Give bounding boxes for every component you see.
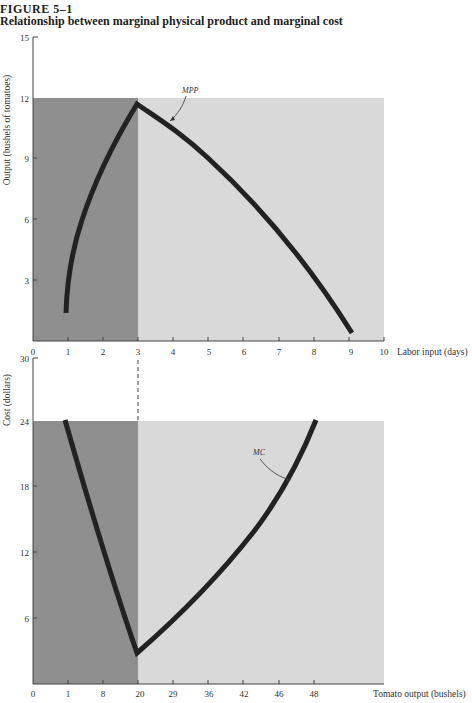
y-axis-label: Cost (dollars): [2, 374, 13, 426]
y-tick-label: 24: [20, 417, 30, 427]
x-axis-label: Labor input (days): [397, 347, 468, 358]
x-tick-label: 48: [310, 689, 320, 699]
x-tick-label: 20: [136, 689, 146, 699]
mpp-label: MPP: [181, 86, 199, 95]
x-tick-label: 7: [277, 347, 282, 357]
y-tick-label: 6: [25, 215, 30, 225]
y-tick-label: 3: [25, 276, 30, 286]
x-tick-label: 4: [171, 347, 176, 357]
mpp-chart: 3 6 9 12 15 0 1 2 3 4 5 6 7 8 9 10 Labor…: [2, 33, 468, 358]
x-tick-label: 0: [31, 347, 36, 357]
x-tick-label: 8: [312, 347, 317, 357]
x-tick-label: 46: [275, 689, 285, 699]
x-tick-label: 29: [169, 689, 179, 699]
x-tick-label: 2: [101, 347, 106, 357]
y-tick-label: 9: [25, 154, 30, 164]
y-tick-label: 15: [20, 33, 30, 43]
x-tick-label: 6: [242, 347, 247, 357]
x-tick-label: 9: [349, 347, 354, 357]
x-tick-label: 1: [66, 689, 71, 699]
mc-label: MC: [252, 448, 266, 457]
y-tick-label: 12: [20, 548, 29, 558]
chart-canvas: 3 6 9 12 15 0 1 2 3 4 5 6 7 8 9 10 Labor…: [0, 0, 472, 703]
x-tick-label: 42: [240, 689, 249, 699]
y-tick-label: 30: [20, 354, 30, 364]
x-tick-label: 36: [205, 689, 215, 699]
x-axis-label: Tomato output (bushels): [373, 689, 466, 700]
y-tick-label: 12: [20, 94, 29, 104]
x-tick-label: 1: [66, 347, 71, 357]
light-shaded-region: [138, 98, 384, 341]
mc-chart: 6 12 18 24 30 0 1 8 20 29 36 42 46 48 To…: [2, 354, 466, 700]
x-tick-label: 0: [31, 689, 36, 699]
y-tick-label: 6: [25, 614, 30, 624]
x-tick-label: 10: [380, 347, 390, 357]
y-tick-label: 18: [20, 482, 30, 492]
x-tick-label: 3: [136, 347, 141, 357]
dark-shaded-region: [33, 421, 138, 684]
x-tick-label: 8: [101, 689, 106, 699]
y-axis-label: Output (bushels of tomatoes): [2, 75, 13, 186]
x-tick-label: 5: [207, 347, 212, 357]
